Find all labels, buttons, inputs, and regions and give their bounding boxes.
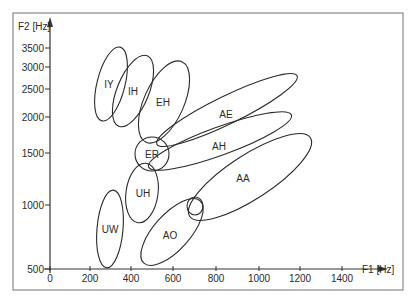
label-uh: UH — [136, 188, 150, 199]
label-ae: AE — [219, 109, 233, 120]
label-aa: AA — [236, 173, 250, 184]
label-ah: AH — [212, 141, 226, 152]
x-tick-label: 800 — [208, 273, 225, 284]
y-tick-label: 500 — [27, 264, 44, 275]
x-tick-label: 200 — [82, 273, 99, 284]
label-ao: AO — [163, 230, 178, 241]
x-tick-label: 600 — [165, 273, 182, 284]
label-iy: IY — [104, 79, 114, 90]
x-tick-label: 1000 — [248, 273, 271, 284]
vowel-regions: IYIHEHAEAHAAERUHUWAO — [88, 44, 322, 276]
y-tick-label: 3500 — [22, 43, 45, 54]
vowel-formant-chart: IYIHEHAEAHAAERUHUWAO 0200400600800100012… — [0, 0, 415, 300]
label-er: ER — [145, 149, 159, 160]
y-ticks: 500100015002000250030003500 — [22, 43, 50, 275]
y-axis-title: F2 [Hz] — [18, 21, 50, 32]
y-tick-label: 2500 — [22, 84, 45, 95]
x-tick-label: 1400 — [331, 273, 354, 284]
y-tick-label: 3000 — [22, 62, 45, 73]
x-axis-title: F1 [Hz] — [362, 264, 394, 275]
x-tick-label: 1200 — [289, 273, 312, 284]
axes: 0200400600800100012001400 50010001500200… — [18, 17, 394, 284]
ellipse-aa — [178, 119, 323, 234]
label-eh: EH — [156, 97, 170, 108]
label-ih: IH — [128, 86, 138, 97]
label-uw: UW — [102, 224, 119, 235]
y-tick-label: 2000 — [22, 112, 45, 123]
y-tick-label: 1000 — [22, 200, 45, 211]
x-tick-label: 400 — [123, 273, 140, 284]
y-tick-label: 1500 — [22, 148, 45, 159]
x-tick-label: 0 — [47, 273, 53, 284]
chart-frame — [13, 13, 403, 290]
